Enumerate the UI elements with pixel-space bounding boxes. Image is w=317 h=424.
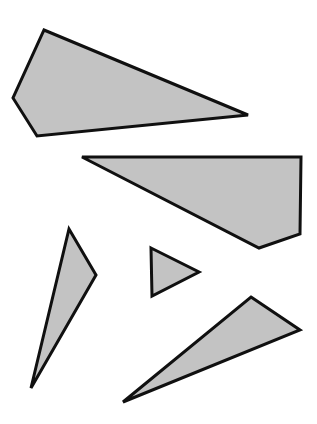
shape-svg bbox=[0, 0, 317, 424]
figure-canvas bbox=[0, 0, 317, 424]
